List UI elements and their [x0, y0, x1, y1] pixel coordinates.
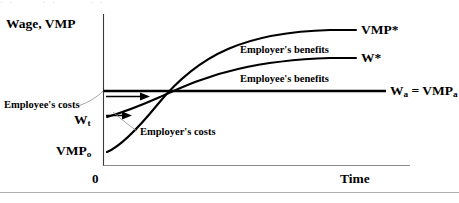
w-t-sub: t — [88, 118, 91, 128]
employee-costs-arrow-head — [140, 93, 150, 101]
employee-benefits-label: Employee's benefits — [240, 74, 329, 85]
employee-costs-leader — [78, 91, 103, 106]
origin-label: 0 — [92, 172, 99, 185]
employer-costs-arrow-head — [122, 112, 132, 120]
w-t-base: W — [74, 112, 88, 127]
vmp-o-sub: o — [87, 149, 92, 159]
wa-vmpa-vmp-sub: a — [453, 89, 458, 99]
y-axis-title: Wage, VMP — [6, 17, 76, 31]
vmp-o-label: VMPo — [56, 144, 91, 159]
w-star-curve — [107, 58, 356, 117]
figure-canvas: . . . . . . Wage, VMP Time 0 VMP* — [0, 0, 459, 203]
wa-vmpa-equals: = — [408, 83, 422, 98]
wa-vmpa-vmp: VMP — [422, 83, 453, 98]
vmp-star-label: VMP* — [361, 23, 399, 37]
wa-vmpa-w: W — [390, 83, 404, 98]
x-axis-title: Time — [340, 172, 370, 186]
employee-costs-label: Employee's costs — [4, 100, 80, 111]
wa-vmpa-label: Wa = VMPa — [390, 84, 458, 99]
employer-costs-label: Employer's costs — [140, 127, 216, 138]
vmp-o-base: VMP — [56, 143, 87, 158]
w-star-label: W* — [361, 51, 381, 65]
w-t-label: Wt — [74, 113, 91, 128]
employer-benefits-label: Employer's benefits — [240, 45, 329, 56]
